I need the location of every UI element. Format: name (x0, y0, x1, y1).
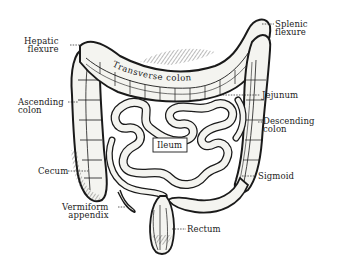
sigmoid-label: Sigmoid (258, 172, 294, 180)
appendix-shape (118, 190, 135, 212)
splenic-flexure-label: Splenic flexure (275, 20, 308, 36)
cecum-label: Cecum (38, 167, 68, 175)
ileum-label: Ileum (157, 141, 182, 149)
intestine-diagram: Transverse colon Hepatic flexure Splenic… (0, 0, 337, 269)
rectum-shape (150, 196, 174, 254)
ascending-colon-label: Ascending colon (18, 98, 64, 114)
rectum-label: Rectum (187, 225, 221, 233)
hepatic-flexure-label: Hepatic flexure (24, 37, 59, 53)
descending-colon-label: Descending colon (263, 117, 315, 133)
jejunum-label: Jejunum (262, 91, 298, 99)
vermiform-appendix-label: Vermiform appendix (62, 203, 109, 219)
